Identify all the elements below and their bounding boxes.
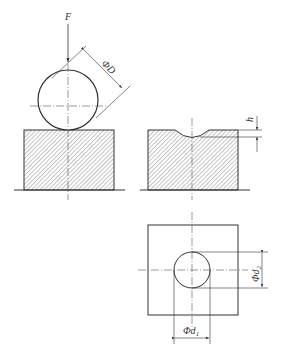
diameter-extension-bottom [96,86,130,118]
brinell-diagram: F ΦD h Φd2 Φd1 [0,0,281,359]
force-label: F [64,11,72,22]
indentation-section: h [140,116,262,200]
d2-label: Φd2 [250,265,263,282]
indentation-top-view: Φd2 Φd1 [138,212,268,344]
indented-block [148,130,238,190]
loading-view: F ΦD [14,11,130,200]
d1-label: Φd1 [183,325,199,338]
depth-label: h [244,117,255,122]
specimen-block [24,130,114,190]
diameter-label: ΦD [100,58,119,77]
